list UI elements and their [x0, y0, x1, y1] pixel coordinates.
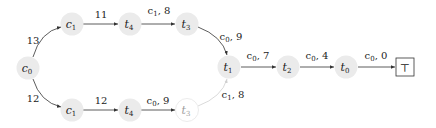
graph-canvas: c0 c1 t4 t3 c1 t4 t3 t1 t2 t0 ⊤ 13 11 c1… — [0, 0, 436, 128]
edge-label-c1-t4-bot: 12 — [95, 95, 108, 106]
edge-label-t4-t3-bot: c0, 9 — [147, 95, 170, 108]
edge-label-t3-bot-t1: c1, 8 — [222, 89, 245, 102]
edge-label-t0-top: c0, 0 — [365, 50, 388, 63]
edge-label-c0-c1-bot: 12 — [27, 93, 40, 104]
edge-label-c1-t4-top: 11 — [95, 9, 108, 20]
edge-label-t3-top-t1: c0, 9 — [220, 31, 243, 44]
edge-label-t1-t2: c0, 7 — [247, 50, 270, 63]
label-top: ⊤ — [400, 62, 410, 75]
edge-label-t2-t0: c0, 4 — [306, 50, 329, 63]
edge-label-c0-c1-top: 13 — [27, 35, 40, 46]
edge-label-t4-t3-top: c1, 8 — [148, 5, 171, 18]
